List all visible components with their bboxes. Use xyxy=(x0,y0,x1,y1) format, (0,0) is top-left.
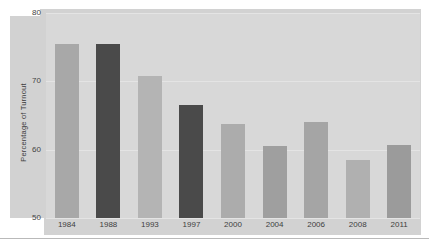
bar-2011 xyxy=(387,145,411,218)
x-tick-label-1988: 1988 xyxy=(88,220,130,229)
y-tick-label-50: 50 xyxy=(17,213,41,222)
x-tick-label-2004: 2004 xyxy=(254,220,296,229)
bottom-divider xyxy=(0,238,429,239)
bar-1993 xyxy=(138,76,162,218)
y-tick-label-70: 70 xyxy=(17,76,41,85)
y-tick-label-80: 80 xyxy=(17,8,41,17)
y-tick-label-60: 60 xyxy=(17,145,41,154)
x-tick-label-1993: 1993 xyxy=(129,220,171,229)
bar-2000 xyxy=(221,124,245,218)
x-axis-tick-labels: 198419881993199720002004200620082011 xyxy=(46,220,420,234)
x-tick-label-1984: 1984 xyxy=(46,220,88,229)
bar-1997 xyxy=(179,105,203,218)
gridline-50 xyxy=(46,218,420,219)
x-tick-label-2011: 2011 xyxy=(378,220,420,229)
x-tick-label-2006: 2006 xyxy=(295,220,337,229)
bar-series xyxy=(46,13,420,218)
chart-screenshot: Percentage of Turnout 80706050 198419881… xyxy=(0,0,429,246)
bar-1988 xyxy=(96,44,120,218)
bar-2004 xyxy=(263,146,287,218)
bar-1984 xyxy=(55,44,79,218)
x-tick-label-2000: 2000 xyxy=(212,220,254,229)
x-tick-label-2008: 2008 xyxy=(337,220,379,229)
bar-2006 xyxy=(304,122,328,218)
x-tick-label-1997: 1997 xyxy=(171,220,213,229)
bar-2008 xyxy=(346,160,370,218)
